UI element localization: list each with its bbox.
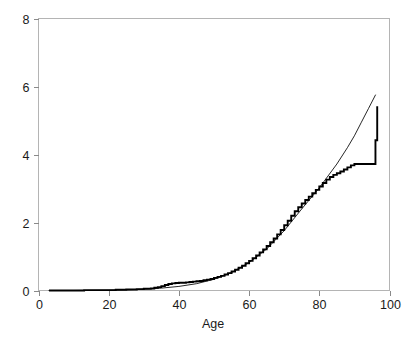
- y-tick-label: 4: [23, 149, 30, 163]
- x-tick-label: 100: [380, 298, 401, 312]
- chart-plot-area: 020406080100 02468 Age: [0, 0, 411, 342]
- x-axis-title: Age: [202, 317, 224, 331]
- x-tick-label: 80: [313, 298, 327, 312]
- x-tick-label: 60: [243, 298, 257, 312]
- series-fitted-smooth-curve: [49, 95, 375, 291]
- series-empirical-step-estimate: [49, 106, 377, 290]
- y-axis-tick-marks: [34, 20, 39, 292]
- x-tick-label: 0: [36, 298, 43, 312]
- chart-figure: 020406080100 02468 Age: [0, 0, 411, 342]
- y-tick-label: 0: [23, 285, 30, 299]
- x-tick-label: 20: [103, 298, 117, 312]
- plot-frame: [39, 19, 390, 291]
- x-tick-label: 40: [173, 298, 187, 312]
- y-tick-label: 8: [23, 13, 30, 27]
- y-axis-tick-labels: 02468: [23, 13, 30, 299]
- x-axis-tick-marks: [40, 291, 391, 296]
- x-axis-tick-labels: 020406080100: [36, 298, 401, 312]
- y-tick-label: 6: [23, 81, 30, 95]
- y-tick-label: 2: [23, 217, 30, 231]
